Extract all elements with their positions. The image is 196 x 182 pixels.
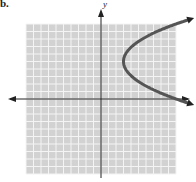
y-axis-label: y [102, 0, 107, 9]
coordinate-plane: y [0, 0, 196, 182]
